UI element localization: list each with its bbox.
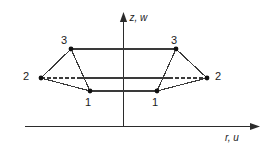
left-edge-2-1 bbox=[41, 78, 90, 91]
left-edge-3-1 bbox=[71, 49, 90, 91]
right-edge-3-2 bbox=[176, 49, 207, 78]
node-label-left-2: 2 bbox=[23, 71, 29, 82]
node-dot-left-2 bbox=[39, 76, 44, 81]
node-label-right-3: 3 bbox=[171, 35, 177, 46]
r-u-axis-arrowhead bbox=[250, 123, 260, 130]
right-edge-2-1 bbox=[157, 78, 207, 91]
right-edge-3-1 bbox=[157, 49, 176, 91]
node-dot-right-2 bbox=[205, 76, 210, 81]
z-w-axis-arrowhead bbox=[120, 12, 127, 22]
node-label-right-2: 2 bbox=[215, 71, 221, 82]
node-dot-right-1 bbox=[155, 89, 160, 94]
r-u-axis-label: r, u bbox=[225, 133, 239, 143]
left-edge-3-2 bbox=[41, 49, 71, 78]
node-label-left-3: 3 bbox=[61, 35, 67, 46]
node-label-left-1: 1 bbox=[85, 97, 91, 108]
node-label-right-1: 1 bbox=[152, 97, 158, 108]
figure-canvas: 321321z, wr, u bbox=[0, 0, 275, 145]
z-w-axis-label: z, w bbox=[130, 13, 148, 23]
axes-group bbox=[25, 12, 260, 130]
node-dot-right-3 bbox=[174, 47, 179, 52]
node-dot-left-3 bbox=[69, 47, 74, 52]
node-dot-left-1 bbox=[88, 89, 93, 94]
